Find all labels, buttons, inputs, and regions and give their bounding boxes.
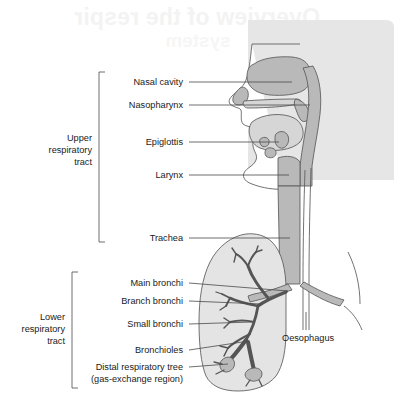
- larynx-label: Larynx: [155, 170, 183, 180]
- right-lung-hint-lower: [344, 306, 362, 330]
- small-bronchi-label: Small bronchi: [127, 319, 183, 329]
- distal-tree-label-line2: (gas-exchange region): [91, 374, 183, 384]
- oesophagus-label: Oesophagus: [282, 333, 335, 343]
- oesophagus-tube-right: [309, 168, 311, 330]
- lung-outline: [199, 234, 286, 391]
- upper-tract-group-label: Upper respiratory tract: [49, 133, 93, 167]
- epiglottis-label: Epiglottis: [146, 137, 184, 147]
- bronchioles-label: Bronchioles: [135, 345, 183, 355]
- main-bronchi-label: Main bronchi: [130, 278, 183, 288]
- nasal-cavity-label: Nasal cavity: [133, 77, 183, 87]
- upper-tract-label-line3: tract: [74, 157, 92, 167]
- lower-tract-group-label: Lower respiratory tract: [22, 312, 66, 346]
- distal-cluster-right: [245, 368, 262, 381]
- lower-tract-label-line1: Lower: [40, 312, 65, 322]
- right-lung-hint-upper: [348, 252, 360, 304]
- branch-bronchi-label: Branch bronchi: [121, 296, 183, 306]
- callout-oesophagus: Oesophagus: [282, 312, 335, 343]
- cricoid-cartilage: [265, 148, 276, 158]
- upper-tract-label-line1: Upper: [67, 133, 92, 143]
- trachea-label: Trachea: [150, 233, 184, 243]
- larynx-shape: [278, 156, 300, 186]
- upper-tract-bracket: [99, 72, 105, 242]
- respiratory-system-figure: Overview of the respir system: [0, 0, 394, 416]
- lower-tract-bracket: [72, 272, 78, 388]
- main-bronchus-right: [300, 282, 344, 306]
- nasopharynx-label: Nasopharynx: [129, 100, 184, 110]
- oesophagus-tube: [303, 170, 305, 330]
- anatomy-svg: Upper respiratory tract Lower respirator…: [0, 0, 394, 416]
- epiglottis-shape: [275, 132, 289, 149]
- lower-tract-label-line2: respiratory: [22, 324, 66, 334]
- distal-tree-label-line1: Distal respiratory tree: [96, 362, 183, 372]
- upper-tract-label-line2: respiratory: [49, 145, 93, 155]
- nasal-cavity-shape: [247, 57, 311, 96]
- lower-tract-label-line3: tract: [47, 336, 65, 346]
